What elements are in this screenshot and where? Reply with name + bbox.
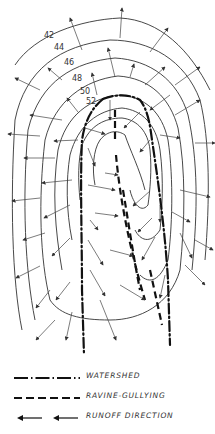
contour-labels: 42 44 46 48 50 52	[44, 31, 96, 106]
ravine-lines	[115, 110, 162, 325]
legend-item-ravine-gullying: RAVINE-GULLYING	[0, 390, 215, 406]
legend-label-ravine-gullying: RAVINE-GULLYING	[86, 391, 166, 400]
legend-item-runoff-direction: RUNOFF DIRECTION	[0, 410, 215, 426]
legend-item-watershed: WATERSHED	[0, 370, 215, 386]
contour-label-52: 52	[86, 97, 96, 106]
legend-label-runoff-direction: RUNOFF DIRECTION	[86, 411, 174, 420]
contour-label-50: 50	[80, 87, 90, 96]
ravine-symbol	[12, 392, 82, 404]
contour-label-48: 48	[72, 74, 82, 83]
legend-label-watershed: WATERSHED	[86, 371, 140, 380]
contour-map: 42 44 46 48 50 52	[0, 0, 215, 360]
runoff-arrow-symbol	[12, 412, 82, 424]
contour-label-46: 46	[64, 58, 74, 67]
runoff-arrows	[8, 8, 215, 340]
watershed-symbol	[12, 372, 82, 384]
contour-label-44: 44	[54, 43, 64, 52]
contour-label-42: 42	[44, 31, 54, 40]
